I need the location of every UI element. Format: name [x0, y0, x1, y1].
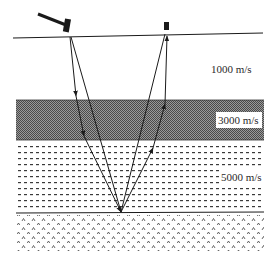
label-1000: 1000 m/s [211, 63, 252, 75]
seismic-diagram: 1000 m/s 3000 m/s 5000 m/s [0, 0, 273, 260]
layer-bedrock [16, 212, 264, 251]
hammer-icon [38, 14, 71, 32]
geophone-icon [164, 22, 169, 30]
ground-surface [13, 33, 263, 38]
label-3000: 3000 m/s [218, 114, 259, 126]
label-5000: 5000 m/s [221, 171, 262, 183]
